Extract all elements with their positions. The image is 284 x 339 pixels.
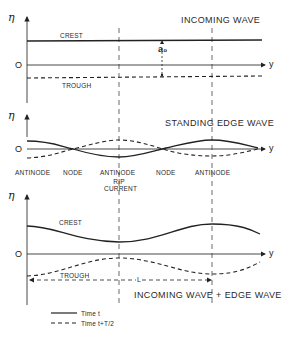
legend-dashed-label: Time t+T/2 [81,320,114,327]
amplitude-label: a₀ [158,44,167,54]
guide-lines [119,28,212,305]
crest-label: CREST [60,32,83,39]
eta-label: η [8,11,15,24]
trough-label: TROUGH [60,272,89,279]
panel-combined-wave [27,195,265,305]
trough-line [27,76,262,78]
edge-wave-solid [27,140,258,157]
panel-incoming-wave [27,17,265,103]
trough-label: TROUGH [62,82,91,89]
combined-solid [27,224,260,242]
legend-solid-label: Time t [81,310,100,317]
eta-label: η [8,109,15,122]
y-axis-label: y [269,143,274,153]
position-label-node: NODE [156,169,176,176]
rip-current-label: RIP CURRENT [104,178,134,192]
crest-line [27,40,262,41]
panel-title-combined-wave: INCOMING WAVE + EDGE WAVE [134,290,282,300]
origin-label: O [15,144,22,154]
panel-title-incoming-wave: INCOMING WAVE [181,15,260,25]
position-label-antinode: ANTINODE [100,169,135,176]
origin-label: O [15,249,22,259]
panel-title-standing-edge-wave: STANDING EDGE WAVE [165,118,274,128]
position-label-antinode: ANTINODE [15,169,50,176]
eta-label: η [8,189,15,202]
crest-label: CREST [59,219,82,226]
origin-label: O [15,60,22,70]
position-label-antinode: ANTINODE [195,169,230,176]
position-label-node: NODE [63,169,83,176]
y-axis-label: y [269,248,274,258]
y-axis-label: y [269,59,274,69]
length-label: L [136,276,142,283]
